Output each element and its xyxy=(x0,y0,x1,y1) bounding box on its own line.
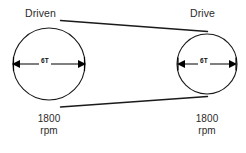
left-pulley-speed: 1800 rpm xyxy=(26,113,72,137)
belt-drive-diagram: Driven Drive 6T 6T 1800 rpm 1800 rpm xyxy=(0,0,246,153)
left-diameter-label: 6T xyxy=(39,57,51,65)
belt-bottom-line xyxy=(61,97,208,108)
belt-top-line xyxy=(61,21,208,32)
right-pulley-speed: 1800 rpm xyxy=(184,113,230,137)
left-pulley-speed-unit: rpm xyxy=(26,125,72,137)
right-pulley-speed-value: 1800 xyxy=(184,113,230,125)
left-pulley-title: Driven xyxy=(25,7,56,19)
right-pulley-title: Drive xyxy=(190,7,215,19)
right-diameter-label: 6T xyxy=(198,57,210,65)
left-pulley-speed-value: 1800 xyxy=(26,113,72,125)
right-pulley-speed-unit: rpm xyxy=(184,125,230,137)
